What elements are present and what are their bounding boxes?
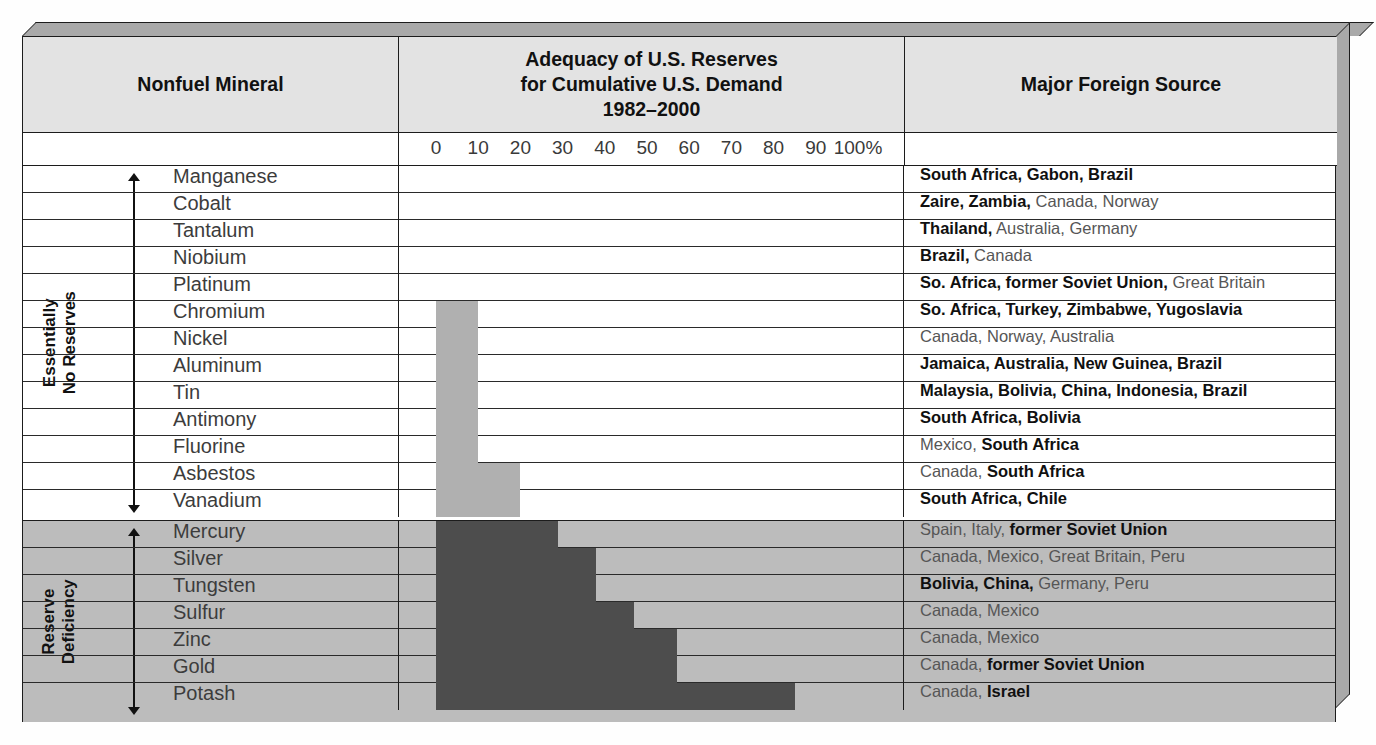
mineral-name: Chromium xyxy=(173,300,265,323)
bevel-right-edge xyxy=(1336,22,1350,708)
major-foreign-source: Canada, Mexico xyxy=(920,628,1039,647)
adequacy-bar xyxy=(436,328,478,355)
adequacy-bar-cell xyxy=(398,274,904,301)
table-row: TinMalaysia, Bolivia, China, Indonesia, … xyxy=(23,382,1335,409)
mineral-name: Nickel xyxy=(173,327,227,350)
mineral-name: Fluorine xyxy=(173,435,245,458)
group-essentially-no-reserves: Essentially No Reserves ManganeseSouth A… xyxy=(23,166,1335,520)
adequacy-bar-cell xyxy=(398,301,904,328)
table-body: Essentially No Reserves ManganeseSouth A… xyxy=(23,166,1335,721)
axis-tick-20: 20 xyxy=(510,137,531,159)
header-major-foreign-source-label: Major Foreign Source xyxy=(1021,72,1221,97)
major-foreign-source: Jamaica, Australia, New Guinea, Brazil xyxy=(920,354,1222,373)
major-foreign-source: South Africa, Bolivia xyxy=(920,408,1081,427)
mineral-name: Tin xyxy=(173,381,200,404)
major-foreign-source: Bolivia, China, Germany, Peru xyxy=(920,574,1149,593)
mineral-name: Gold xyxy=(173,655,215,678)
table-row: PotashCanada, Israel xyxy=(23,683,1335,710)
adequacy-bar-cell xyxy=(398,166,904,193)
mineral-name: Asbestos xyxy=(173,462,255,485)
axis-tick-90: 90 xyxy=(805,137,826,159)
data-table: Nonfuel Mineral Adequacy of U.S. Reserve… xyxy=(22,36,1336,722)
adequacy-bar-cell xyxy=(398,355,904,382)
axis-tick-50: 50 xyxy=(636,137,657,159)
header-nonfuel-mineral-label: Nonfuel Mineral xyxy=(137,72,283,97)
header-adequacy-line3: 1982–2000 xyxy=(520,97,782,122)
header-adequacy-line1: Adequacy of U.S. Reserves xyxy=(520,47,782,72)
mineral-name: Sulfur xyxy=(173,601,225,624)
table-row: NickelCanada, Norway, Australia xyxy=(23,328,1335,355)
table-row: MercurySpain, Italy, former Soviet Union xyxy=(23,521,1335,548)
mineral-name: Niobium xyxy=(173,246,246,269)
table-row: TungstenBolivia, China, Germany, Peru xyxy=(23,575,1335,602)
table-row: ManganeseSouth Africa, Gabon, Brazil xyxy=(23,166,1335,193)
mineral-name: Antimony xyxy=(173,408,256,431)
table-row: AluminumJamaica, Australia, New Guinea, … xyxy=(23,355,1335,382)
adequacy-bar-cell xyxy=(398,328,904,355)
axis-tick-band: 0102030405060708090100% xyxy=(398,133,904,166)
major-foreign-source: Canada, Norway, Australia xyxy=(920,327,1114,346)
adequacy-bar xyxy=(436,355,478,382)
adequacy-bar-cell xyxy=(398,521,904,548)
mineral-name: Tungsten xyxy=(173,574,256,597)
major-foreign-source: South Africa, Chile xyxy=(920,489,1067,508)
adequacy-bar-cell xyxy=(398,656,904,683)
adequacy-bar xyxy=(436,683,795,710)
table-row: AntimonySouth Africa, Bolivia xyxy=(23,409,1335,436)
adequacy-bar-cell xyxy=(398,463,904,490)
axis-tick-0: 0 xyxy=(431,137,442,159)
table-row: ChromiumSo. Africa, Turkey, Zimbabwe, Yu… xyxy=(23,301,1335,328)
header-adequacy-line2: for Cumulative U.S. Demand xyxy=(520,72,782,97)
major-foreign-source: Spain, Italy, former Soviet Union xyxy=(920,520,1167,539)
adequacy-bar-cell xyxy=(398,629,904,656)
table-row: NiobiumBrazil, Canada xyxy=(23,247,1335,274)
group-reserve-deficiency: Reserve Deficiency MercurySpain, Italy, … xyxy=(23,520,1335,722)
table-row: AsbestosCanada, South Africa xyxy=(23,463,1335,490)
adequacy-bar xyxy=(436,575,596,602)
mineral-name: Mercury xyxy=(173,520,245,543)
adequacy-bar-cell xyxy=(398,548,904,575)
table-row: TantalumThailand, Australia, Germany xyxy=(23,220,1335,247)
axis-tick-80: 80 xyxy=(763,137,784,159)
major-foreign-source: South Africa, Gabon, Brazil xyxy=(920,165,1133,184)
table-row: VanadiumSouth Africa, Chile xyxy=(23,490,1335,517)
mineral-name: Zinc xyxy=(173,628,211,651)
adequacy-bar-cell xyxy=(398,490,904,517)
axis-tick-10: 10 xyxy=(468,137,489,159)
mineral-name: Silver xyxy=(173,547,223,570)
major-foreign-source: Canada, Mexico xyxy=(920,601,1039,620)
adequacy-bar xyxy=(436,382,478,409)
adequacy-bar xyxy=(436,436,478,463)
scale-band-spacer-right xyxy=(904,133,1337,166)
mineral-name: Manganese xyxy=(173,165,278,188)
table-row: FluorineMexico, South Africa xyxy=(23,436,1335,463)
major-foreign-source: Mexico, South Africa xyxy=(920,435,1079,454)
adequacy-bar xyxy=(436,656,677,683)
adequacy-bar-cell xyxy=(398,436,904,463)
axis-tick-100: 100% xyxy=(834,137,883,159)
adequacy-bar-cell xyxy=(398,409,904,436)
axis-tick-30: 30 xyxy=(552,137,573,159)
adequacy-bar-cell xyxy=(398,602,904,629)
mineral-name: Potash xyxy=(173,682,235,705)
bevel-top-edge xyxy=(22,22,1374,36)
adequacy-bar xyxy=(436,409,478,436)
adequacy-bar xyxy=(436,521,558,548)
header-major-foreign-source: Major Foreign Source xyxy=(904,37,1337,133)
table-row: PlatinumSo. Africa, former Soviet Union,… xyxy=(23,274,1335,301)
adequacy-bar xyxy=(436,629,677,656)
major-foreign-source: So. Africa, Turkey, Zimbabwe, Yugoslavia xyxy=(920,300,1242,319)
figure-root: Nonfuel Mineral Adequacy of U.S. Reserve… xyxy=(0,0,1376,745)
adequacy-bar xyxy=(436,602,634,629)
adequacy-bar xyxy=(436,490,520,517)
major-foreign-source: Zaire, Zambia, Canada, Norway xyxy=(920,192,1158,211)
axis-tick-40: 40 xyxy=(594,137,615,159)
table-row: SulfurCanada, Mexico xyxy=(23,602,1335,629)
table-row: SilverCanada, Mexico, Great Britain, Per… xyxy=(23,548,1335,575)
mineral-name: Cobalt xyxy=(173,192,231,215)
major-foreign-source: So. Africa, former Soviet Union, Great B… xyxy=(920,273,1265,292)
adequacy-bar-cell xyxy=(398,220,904,247)
adequacy-bar-cell xyxy=(398,193,904,220)
scale-band-spacer-left xyxy=(23,133,398,166)
adequacy-bar-cell xyxy=(398,382,904,409)
